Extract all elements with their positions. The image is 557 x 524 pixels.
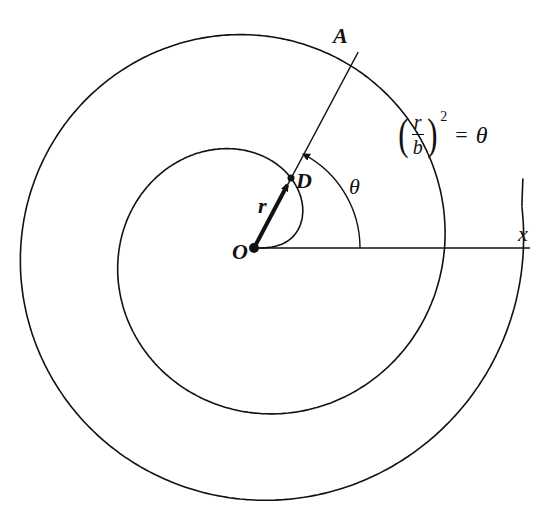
spiral-equation: ( r b ) 2 = θ — [396, 112, 488, 157]
equation-exponent: 2 — [440, 110, 447, 124]
equation-right-paren: ) — [427, 113, 437, 157]
label-r: r — [258, 195, 267, 217]
theta-angle-arc — [304, 154, 360, 248]
label-D: D — [296, 170, 312, 192]
diagram-canvas — [0, 0, 557, 524]
spiral-end-segment — [522, 179, 523, 207]
origin-point-O — [249, 243, 259, 253]
equation-left-paren: ( — [398, 113, 408, 157]
point-D — [288, 175, 295, 182]
fraction-bar — [412, 134, 424, 135]
equation-denominator: b — [413, 137, 423, 157]
equation-equals: = — [455, 124, 467, 146]
label-theta: θ — [349, 176, 360, 198]
label-A: A — [333, 25, 348, 47]
spiral-diagram: A D O r θ x ( r b ) 2 = θ — [0, 0, 557, 524]
label-x: x — [518, 223, 528, 245]
fermat-spiral-curve — [20, 35, 523, 501]
equation-rhs-theta: θ — [476, 123, 488, 147]
equation-fraction: r b — [412, 112, 424, 157]
label-O: O — [232, 241, 248, 263]
equation-numerator: r — [414, 112, 422, 132]
